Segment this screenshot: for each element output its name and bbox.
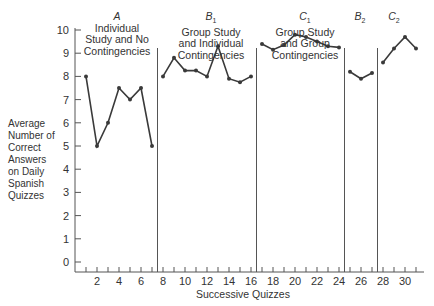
x-tick-label: 2 [94,275,100,287]
x-tick-label: 14 [223,275,235,287]
phase-b2-header: B2 [348,11,372,27]
y-label-line: Answers [8,154,78,166]
y-label-line: Quizzes [8,190,78,202]
data-point [95,144,99,148]
phase-title-line: Contingencies [255,50,355,62]
y-label-line: on Daily [8,166,78,178]
phase-title-line: Contingencies [156,50,266,62]
y-tick-label: 8 [63,70,69,82]
data-point [249,74,253,78]
y-tick-label: 0 [63,256,69,268]
phase-code: B [206,10,213,22]
x-tick-label: 4 [116,275,122,287]
y-tick-label: 1 [63,233,69,245]
data-point [414,47,418,51]
phase-c2-header: C2 [382,11,406,27]
data-point [238,80,242,84]
data-point [348,70,352,74]
x-tick-label: 24 [333,275,345,287]
y-tick-label: 7 [63,94,69,106]
y-tick-label: 2 [63,210,69,222]
y-axis-label: Average Number of Correct Answers on Dai… [8,118,78,202]
data-point [139,86,143,90]
data-point [106,121,110,125]
phase-subscript: 2 [362,17,366,24]
data-point [183,69,187,73]
phase-code: B [355,10,362,22]
x-tick-label: 22 [311,275,323,287]
data-point [117,86,121,90]
data-point [84,74,88,78]
x-tick-label: 30 [399,275,411,287]
phase-code: A [113,10,120,22]
phase-subscript: 2 [396,17,400,24]
data-point [205,74,209,78]
phase-code: C [388,10,396,22]
data-point [381,60,385,64]
y-label-line: Spanish [8,178,78,190]
phase-b1-header: B1 Group Study and Individual Contingenc… [156,11,266,61]
x-tick-label: 6 [138,275,144,287]
data-point [403,35,407,39]
phase-subscript: 1 [307,17,311,24]
x-tick-label: 12 [201,275,213,287]
x-axis-label: Successive Quizzes [196,288,290,300]
x-tick-label: 16 [245,275,257,287]
phase-title-line: and Group [255,38,355,50]
data-point [194,69,198,73]
x-tick-label: 20 [289,275,301,287]
phase-title-line: and Individual [156,38,266,50]
x-tick-label: 18 [267,275,279,287]
x-tick-label: 10 [179,275,191,287]
phase-c1-header: C1 Group Study and Group Contingencies [255,11,355,61]
x-tick-label: 28 [377,275,389,287]
x-tick-label: 26 [355,275,367,287]
data-point [392,47,396,51]
data-point [359,77,363,81]
y-label-line: Number of [8,130,78,142]
y-label-line: Average [8,118,78,130]
y-label-line: Correct [8,142,78,154]
data-point [150,144,154,148]
phase-code: C [299,10,307,22]
phase-subscript: 1 [213,17,217,24]
data-line [383,37,416,63]
data-point [370,71,374,75]
data-point [161,74,165,78]
x-tick-label: 8 [160,275,166,287]
data-point [227,77,231,81]
data-point [128,98,132,102]
